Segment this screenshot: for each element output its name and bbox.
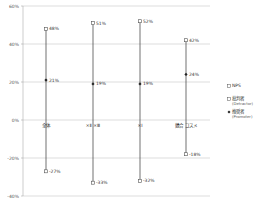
promoter-marker <box>185 39 188 42</box>
legend-marker-icon <box>228 98 231 101</box>
nps-marker <box>138 82 141 85</box>
legend-sublabel: (Detractor) <box>232 101 254 106</box>
data-label: 19% <box>96 81 107 86</box>
category-label: 全体 <box>42 122 51 129</box>
y-tick-label: -40% <box>7 194 19 199</box>
x-axis-labels: 全体×Ⅱ ×Ⅲ×Ⅰ競合 コスメ <box>42 122 197 129</box>
gridlines <box>23 6 210 196</box>
data-label: 24% <box>189 72 200 77</box>
nps-marker <box>184 73 187 76</box>
data-label: 21% <box>49 78 60 83</box>
y-tick-label: -20% <box>7 156 19 161</box>
data-label: -27% <box>49 169 61 174</box>
nps-marker <box>44 79 47 82</box>
legend-label: NPS <box>232 83 241 88</box>
promoter-marker <box>139 20 142 23</box>
legend-marker-icon <box>228 85 231 88</box>
legend-marker-icon <box>228 111 231 114</box>
y-tick-label: 0% <box>12 118 20 123</box>
legend-sublabel: (Promoter) <box>232 114 253 119</box>
y-tick-label: 60% <box>9 4 20 9</box>
category-label: ×Ⅱ ×Ⅲ <box>86 123 100 128</box>
category-label: 競合 コスメ <box>175 122 196 129</box>
nps-marker <box>91 82 94 85</box>
legend: NPS批判者(Detractor)推奨者(Promoter) <box>228 83 254 119</box>
data-label: 52% <box>143 19 154 24</box>
data-label: 42% <box>189 38 200 43</box>
promoter-marker <box>45 27 48 30</box>
range-lines: 48%21%-27%51%19%-33%52%19%-32%42%24%-18% <box>44 19 201 186</box>
detractor-marker <box>185 153 188 156</box>
data-label: -32% <box>143 178 155 183</box>
data-label: -18% <box>189 152 201 157</box>
detractor-marker <box>139 179 142 182</box>
category-label: ×Ⅰ <box>137 123 142 128</box>
y-axis: 60%40%20%0%-20%-40% <box>7 4 23 199</box>
y-tick-label: 20% <box>9 80 20 85</box>
promoter-marker <box>92 22 95 25</box>
detractor-marker <box>92 181 95 184</box>
data-label: 48% <box>49 26 60 31</box>
data-label: -33% <box>96 180 108 185</box>
data-label: 19% <box>143 81 154 86</box>
detractor-marker <box>45 170 48 173</box>
y-tick-label: 40% <box>9 42 20 47</box>
nps-chart: 60%40%20%0%-20%-40% 48%21%-27%51%19%-33%… <box>0 0 269 209</box>
data-label: 51% <box>96 21 107 26</box>
